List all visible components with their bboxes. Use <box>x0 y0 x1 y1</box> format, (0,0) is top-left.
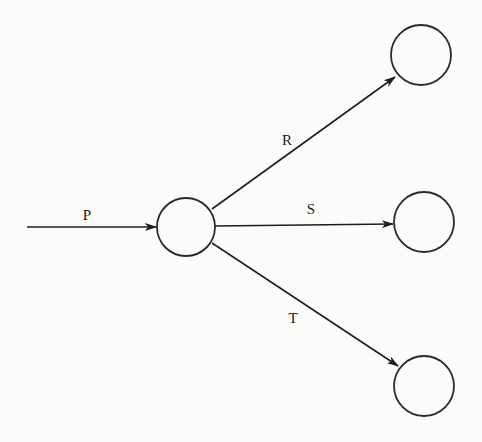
nodes-layer <box>157 25 454 416</box>
edge-label-r: R <box>282 132 292 148</box>
edge-label-t: T <box>288 310 297 326</box>
flow-diagram: PRST <box>0 0 482 442</box>
edge-label-p: P <box>83 207 91 223</box>
edge-arrow-r <box>212 77 395 209</box>
edge-arrow-s <box>215 224 393 226</box>
edge-arrow-t <box>212 243 398 366</box>
node-center <box>157 198 215 256</box>
node-top-right <box>391 25 451 85</box>
node-bottom-right <box>394 356 454 416</box>
edge-label-s: S <box>307 201 315 217</box>
node-middle-right <box>394 192 454 252</box>
